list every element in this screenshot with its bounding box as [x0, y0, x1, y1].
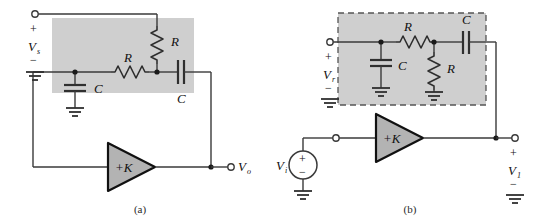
panel-a-label-resistor-series: R	[123, 50, 132, 65]
caption-b: (b)	[375, 203, 445, 215]
panel-a-shaded-box	[52, 18, 194, 93]
panel-a-output-terminal[interactable]	[228, 164, 234, 170]
panel-b-node-left	[378, 39, 383, 44]
panel-a-input-terminal[interactable]	[32, 11, 38, 17]
panel-a-input-sublabel: s	[37, 47, 40, 56]
panel-b-source-minus: −	[299, 165, 306, 179]
panel-a-amplifier-label: +K	[115, 160, 134, 175]
panel-b-output-minus: −	[510, 177, 517, 191]
circuit-figure: + V s − R R C C +K V o	[0, 0, 539, 224]
panel-a-node-left	[72, 69, 77, 74]
panel-a: + V s − R R C C +K V o	[26, 11, 251, 191]
panel-b-label-capacitor-series: C	[462, 12, 471, 27]
panel-a-output-sublabel: o	[247, 167, 251, 176]
panel-b-input-plus: +	[325, 50, 332, 64]
panel-b-source-plus: +	[299, 152, 306, 166]
panel-b-output-plus: +	[510, 146, 517, 160]
panel-a-label-capacitor-feedback: C	[177, 91, 186, 106]
panel-b-input-terminal[interactable]	[327, 39, 333, 45]
panel-a-ground-icon-input	[26, 72, 44, 80]
panel-b-amplifier-label: +K	[383, 131, 402, 146]
panel-a-input-minus: −	[30, 53, 37, 67]
panel-a-node-mid	[154, 69, 159, 74]
panel-b-input-sublabel: r	[332, 75, 336, 84]
panel-a-label-capacitor-shunt: C	[94, 81, 103, 96]
panel-b: + V r − R C C R + − V i	[276, 12, 524, 203]
panel-b-ground-icon-input	[321, 99, 339, 107]
panel-b-node-mid	[431, 39, 436, 44]
circuit-svg: + V s − R R C C +K V o	[0, 0, 539, 224]
panel-b-ground-icon-output	[506, 195, 524, 203]
panel-b-input-minus: −	[325, 81, 332, 95]
panel-b-label-resistor-series: R	[403, 19, 412, 34]
panel-a-input-plus: +	[30, 22, 37, 36]
panel-b-source-sublabel: i	[285, 166, 287, 175]
panel-b-output-sublabel: 1	[517, 171, 521, 180]
panel-b-output-terminal[interactable]	[512, 135, 518, 141]
panel-b-label-resistor-shunt: R	[446, 61, 455, 76]
panel-a-label-resistor-feedback: R	[170, 34, 179, 49]
caption-a: (a)	[105, 203, 175, 215]
panel-b-amp-input-terminal[interactable]	[333, 135, 339, 141]
panel-b-label-capacitor-shunt: C	[398, 58, 407, 73]
panel-a-ground-icon-shunt	[66, 108, 84, 116]
panel-b-ground-icon-source	[294, 191, 312, 199]
